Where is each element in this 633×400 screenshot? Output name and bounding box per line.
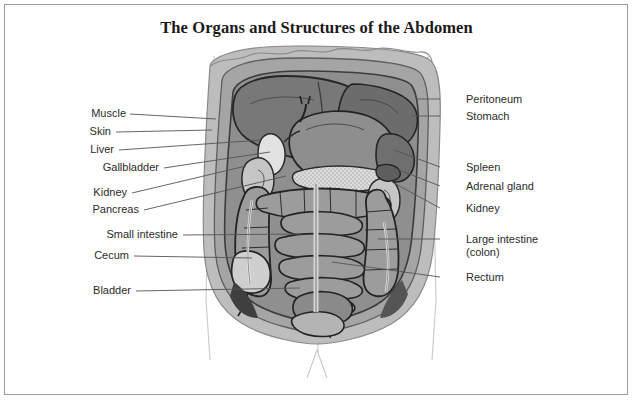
label-kidney-left: Kidney [0, 186, 127, 199]
leader-skin [116, 130, 212, 132]
label-skin: Skin [0, 125, 111, 138]
label-pancreas: Pancreas [0, 203, 139, 216]
label-stomach: Stomach [466, 110, 509, 123]
label-gallbladder: Gallbladder [0, 161, 159, 174]
abdomen-anatomy-illustration [0, 0, 633, 400]
label-bladder: Bladder [0, 284, 131, 297]
adrenal-gland-organ [376, 164, 400, 181]
label-kidney-right: Kidney [466, 202, 500, 215]
leader-muscle [130, 114, 216, 119]
label-peritoneum: Peritoneum [466, 93, 522, 106]
label-large-intestine-line1: Large intestine [466, 233, 538, 246]
label-small-intestine: Small intestine [0, 228, 178, 241]
label-spleen: Spleen [466, 161, 500, 174]
diagram-page: The Organs and Structures of the Abdomen [0, 0, 633, 400]
label-cecum: Cecum [0, 249, 129, 262]
label-rectum: Rectum [466, 271, 504, 284]
label-large-intestine-line2: (colon) [466, 246, 538, 259]
label-adrenal-gland: Adrenal gland [466, 180, 534, 193]
label-muscle: Muscle [0, 107, 126, 120]
label-large-intestine: Large intestine (colon) [466, 233, 538, 258]
label-liver: Liver [0, 143, 114, 156]
